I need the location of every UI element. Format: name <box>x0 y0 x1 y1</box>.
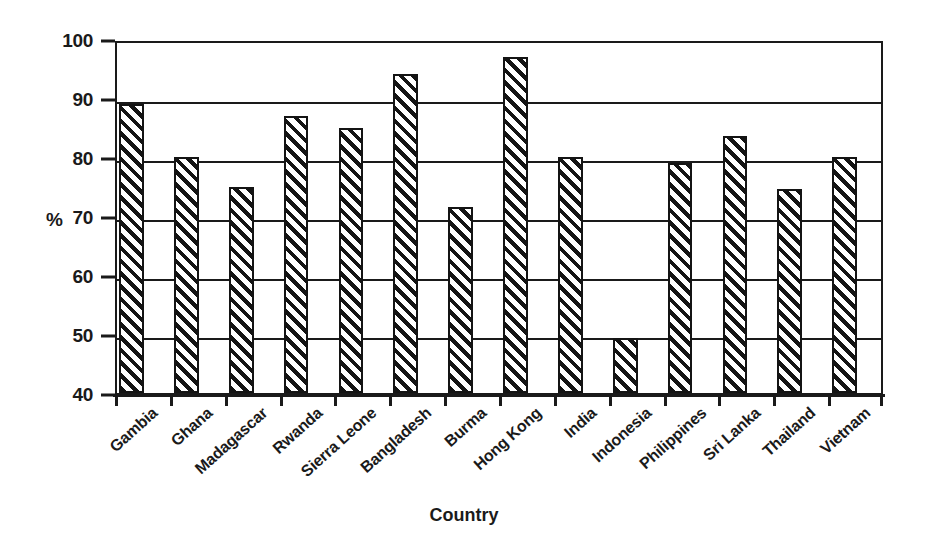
x-tick-label: Sri Lanka <box>700 404 764 464</box>
bar-slot <box>336 43 391 393</box>
x-tick-label: Burma <box>441 404 490 451</box>
y-tick-label: 40 <box>72 384 93 406</box>
y-tick-mark <box>101 158 115 161</box>
y-tick-label: 50 <box>72 325 93 347</box>
plot-area <box>115 41 883 395</box>
bar-slot <box>720 43 775 393</box>
y-tick-label: 90 <box>72 89 93 111</box>
bar[interactable] <box>503 57 528 393</box>
y-tick-label: 80 <box>72 148 93 170</box>
y-tick-mark <box>101 40 115 43</box>
bar[interactable] <box>229 187 254 394</box>
bar-chart: % 405060708090100 GambiaGhanaMadagascarR… <box>0 0 928 549</box>
bar-slot <box>611 43 666 393</box>
y-tick-label: 70 <box>72 207 93 229</box>
bar[interactable] <box>558 157 583 393</box>
bar-slot <box>172 43 227 393</box>
y-tick-label: 100 <box>62 30 93 52</box>
bar-slot <box>227 43 282 393</box>
y-tick-mark <box>101 217 115 220</box>
bar-slot <box>501 43 556 393</box>
bar-slot <box>830 43 885 393</box>
bar-slot <box>117 43 172 393</box>
y-tick-mark <box>101 335 115 338</box>
bar-slot <box>391 43 446 393</box>
bar-slot <box>556 43 611 393</box>
bar[interactable] <box>119 104 144 393</box>
x-tick-label: Vietnam <box>817 404 874 458</box>
bar-slot <box>666 43 721 393</box>
x-tick-label: India <box>561 404 600 442</box>
y-tick-label: 60 <box>72 266 93 288</box>
bar[interactable] <box>668 163 693 393</box>
bar-slot <box>282 43 337 393</box>
bar[interactable] <box>393 74 418 393</box>
bar[interactable] <box>777 189 802 393</box>
bar[interactable] <box>448 207 473 393</box>
bar[interactable] <box>339 128 364 394</box>
x-axis-title: Country <box>0 505 928 526</box>
y-tick-mark <box>101 276 115 279</box>
y-tick-mark <box>101 99 115 102</box>
bar-slot <box>446 43 501 393</box>
bars-layer <box>117 43 881 393</box>
bar[interactable] <box>832 157 857 393</box>
bar[interactable] <box>723 136 748 393</box>
bar[interactable] <box>613 338 638 393</box>
x-tick-label: Thailand <box>760 404 820 460</box>
bar[interactable] <box>284 116 309 393</box>
x-axis-ticklabels: GambiaGhanaMadagascarRwandaSierra LeoneB… <box>115 404 883 504</box>
y-axis: 405060708090100 <box>0 0 115 420</box>
x-tick-label: Ghana <box>168 404 216 450</box>
bar-slot <box>775 43 830 393</box>
x-tick-label: Gambia <box>106 404 161 456</box>
bar[interactable] <box>174 157 199 393</box>
